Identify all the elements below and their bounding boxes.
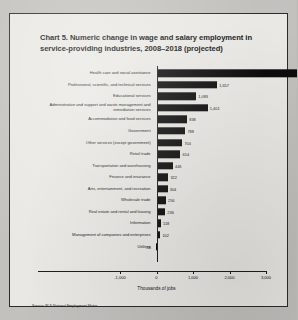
- bar: [157, 116, 188, 123]
- bar: [157, 197, 166, 204]
- bar-value-label: 102: [162, 232, 169, 237]
- bar: [157, 150, 181, 157]
- bar-value-label: 1,657: [219, 82, 229, 87]
- category-label: Professional, scientific, and technical …: [39, 82, 151, 87]
- bar-value-label: 1,401: [210, 105, 220, 110]
- bar: [157, 162, 173, 169]
- bar-row: Other services (except government)704: [10, 137, 289, 149]
- bar-row: Transportation and warehousing446: [10, 160, 289, 172]
- bar-value-label: 256: [168, 198, 175, 203]
- category-label: Management of companies and enterprises: [39, 233, 151, 238]
- screenshot-page: Chart 5. Numeric change in wage and sala…: [0, 0, 297, 320]
- bar-row: Accommodation and food services838: [10, 114, 289, 126]
- bar: [157, 93, 197, 100]
- bar-row: Wholesale trade256: [10, 195, 289, 207]
- bar-row: Real estate and rental and leasing236: [10, 206, 289, 218]
- bar: [157, 139, 183, 146]
- bar: [157, 127, 186, 134]
- x-axis-tick: [157, 271, 158, 274]
- bar-row: Professional, scientific, and technical …: [10, 79, 289, 91]
- bar-value-label: 788: [187, 129, 194, 134]
- source-note: Source: BLS National Employment Matrix: [32, 304, 97, 308]
- category-label: Transportation and warehousing: [39, 163, 151, 168]
- x-axis-line: [38, 271, 266, 272]
- x-axis-tick: [230, 271, 231, 274]
- bar-value-label: 236: [167, 209, 174, 214]
- bar-value-label: 304: [170, 186, 177, 191]
- bar: [157, 81, 217, 88]
- category-label: Health care and social assistance: [39, 71, 151, 76]
- bar-row: Arts, entertainment, and recreation304: [10, 183, 289, 195]
- bar-value-label: 446: [175, 163, 182, 168]
- x-axis-title: Thousands of jobs: [137, 286, 175, 291]
- category-label: Wholesale trade: [39, 198, 151, 203]
- bar: [157, 104, 208, 111]
- bar-value-label: 1,083: [198, 94, 208, 99]
- bar-row: Utilities-16: [10, 241, 289, 253]
- bar-row: Health care and social assistance4,077: [10, 68, 289, 80]
- bar-value-label: 704: [184, 140, 191, 145]
- bar-row: Finance and insurance322: [10, 171, 289, 183]
- bar-row: Retail trade654: [10, 148, 289, 160]
- category-label: Administrative and support and waste man…: [39, 103, 151, 113]
- x-axis-tick-label: 2,000: [224, 275, 234, 280]
- bar-value-label: -16: [145, 244, 151, 249]
- category-label: Government: [39, 129, 151, 134]
- chart-title: Chart 5. Numeric change in wage and sala…: [40, 33, 272, 54]
- chart-card: Chart 5. Numeric change in wage and sala…: [9, 13, 288, 307]
- category-label: Arts, entertainment, and recreation: [39, 186, 151, 191]
- bar-value-label: 118: [163, 221, 169, 226]
- category-label: Real estate and rental and leasing: [39, 209, 151, 214]
- category-label: Accommodation and food services: [39, 117, 151, 122]
- x-axis-tick-label: -1,000: [114, 275, 126, 280]
- x-axis-tick: [120, 271, 121, 274]
- bar: [157, 174, 169, 181]
- category-label: Other services (except government): [39, 140, 151, 145]
- x-axis-tick-label: 1,000: [188, 275, 198, 280]
- zero-baseline: [157, 66, 158, 262]
- x-axis-tick: [266, 271, 267, 274]
- x-axis-tick: [193, 271, 194, 274]
- bar-row: Government788: [10, 125, 289, 137]
- bar: [157, 208, 166, 215]
- bar-value-label: 322: [170, 175, 177, 180]
- bar-value-label: 838: [189, 117, 196, 122]
- category-label: Educational services: [39, 94, 151, 99]
- bar-row: Administrative and support and waste man…: [10, 102, 289, 114]
- bar-row: Educational services1,083: [10, 91, 289, 103]
- category-label: Information: [39, 221, 151, 226]
- bar-value-label: 654: [183, 152, 190, 157]
- bar: [157, 185, 168, 192]
- x-axis-tick-label: 0: [155, 275, 157, 280]
- category-label: Finance and insurance: [39, 175, 151, 180]
- category-label: Retail trade: [39, 152, 151, 157]
- bar: [157, 70, 298, 77]
- bar-row: Information118: [10, 218, 289, 230]
- category-label: Utilities: [39, 244, 151, 249]
- chart-plot-area: Health care and social assistance4,077Pr…: [10, 66, 289, 271]
- bar-row: Management of companies and enterprises1…: [10, 229, 289, 241]
- x-axis-tick-label: 3,000: [261, 275, 271, 280]
